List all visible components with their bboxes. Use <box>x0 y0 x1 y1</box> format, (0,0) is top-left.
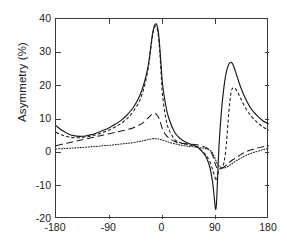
y-tick-label: 20 <box>39 80 51 90</box>
y-tick-label: 30 <box>39 46 51 56</box>
y-tick-label: 40 <box>39 13 51 23</box>
x-tick-label: 90 <box>209 222 221 232</box>
y-axis-label: Asymmetry (%) <box>16 16 28 148</box>
x-tick-label: 0 <box>159 222 165 232</box>
x-tick-label: -90 <box>101 222 116 232</box>
y-tick-label: 10 <box>39 113 51 123</box>
data-series-short-dashed <box>56 26 269 181</box>
y-tick-label: -10 <box>36 180 51 190</box>
x-tick-label: -180 <box>44 222 65 232</box>
x-tick-label: 180 <box>259 222 277 232</box>
y-tick-label: 0 <box>45 146 51 156</box>
x-axis-tick-labels: -180-90090180 <box>55 222 268 238</box>
data-series-dotted <box>56 139 269 168</box>
figure-asymmetry-plot: 403020100-10-20 Asymmetry (%) -180-90090… <box>0 0 287 247</box>
plot-area <box>55 18 268 218</box>
data-series-solid <box>56 24 269 210</box>
plot-curves <box>56 19 269 219</box>
